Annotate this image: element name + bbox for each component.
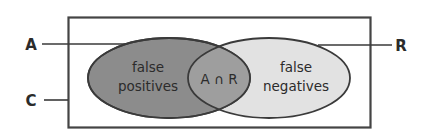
intersection-label: A ∩ R (200, 71, 237, 87)
false-positives-label-line1: false (132, 59, 164, 75)
venn-diagram-canvas: A C R false positives A ∩ R false negati… (0, 0, 425, 139)
false-negatives-label-line2: negatives (263, 78, 329, 94)
set-a-label: A (25, 36, 37, 54)
false-positives-label-line2: positives (118, 78, 178, 94)
false-negatives-label-line1: false (280, 59, 312, 75)
venn-diagram-figure: A C R false positives A ∩ R false negati… (0, 0, 425, 139)
universe-label: C (25, 92, 36, 110)
set-r-label: R (395, 37, 407, 55)
